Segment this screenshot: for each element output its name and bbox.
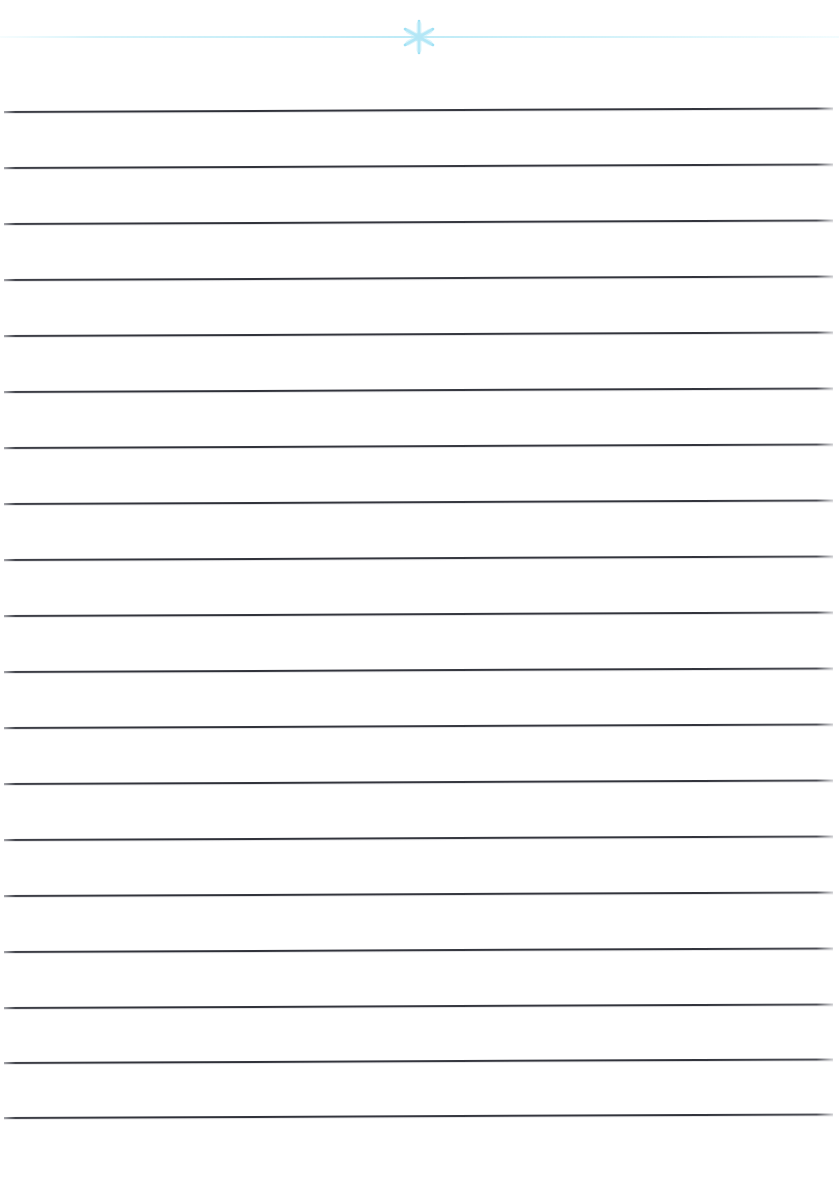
rule-line bbox=[4, 892, 833, 897]
rule-line bbox=[4, 220, 833, 225]
rule-line bbox=[4, 1004, 833, 1009]
rule-line bbox=[4, 276, 833, 281]
ruled-lines-layer bbox=[0, 0, 839, 1180]
rule-line bbox=[4, 780, 833, 785]
rule-line bbox=[4, 556, 833, 561]
rule-line bbox=[4, 332, 833, 337]
rule-line bbox=[4, 668, 833, 673]
rule-line bbox=[4, 724, 833, 729]
rule-line bbox=[4, 1059, 833, 1064]
lined-paper-sheet bbox=[0, 0, 839, 1180]
rule-line bbox=[4, 108, 833, 113]
rule-line bbox=[4, 612, 833, 617]
rule-line bbox=[4, 948, 833, 953]
rule-line bbox=[4, 164, 833, 169]
rule-line bbox=[4, 500, 833, 505]
rule-line bbox=[4, 836, 833, 841]
rule-line bbox=[4, 388, 833, 393]
rule-line bbox=[4, 1114, 833, 1119]
rule-line bbox=[4, 444, 833, 449]
